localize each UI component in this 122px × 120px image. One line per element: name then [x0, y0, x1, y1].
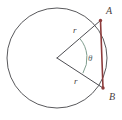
label-theta: θ [88, 53, 93, 63]
circle-sector-svg: A B r r θ [0, 0, 122, 120]
radius-line-to-a [57, 21, 101, 59]
central-angle-arc [80, 38, 87, 73]
chord-line-ab [101, 21, 104, 89]
label-radius-lower: r [74, 76, 78, 86]
point-marker-a [99, 19, 102, 22]
label-point-b: B [109, 91, 115, 102]
label-radius-upper: r [73, 25, 77, 35]
radius-line-to-b [57, 58, 103, 88]
label-point-a: A [105, 5, 113, 16]
geometry-figure: A B r r θ [0, 0, 122, 120]
point-marker-b [101, 86, 104, 89]
